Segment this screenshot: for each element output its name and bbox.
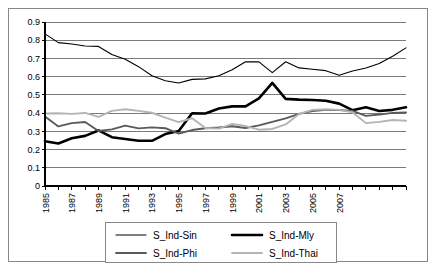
chart-legend: S_Ind-SinS_Ind-MlyS_Ind-PhiS_Ind-Thai — [105, 222, 336, 262]
x-axis-tick-label: 2007 — [335, 193, 345, 213]
y-axis-tick-label: 0.5 — [27, 90, 40, 100]
y-axis-tick-label: 0.3 — [27, 127, 40, 137]
y-axis-tick-label: 0.9 — [27, 17, 40, 27]
x-axis-tick-label: 2001 — [254, 193, 264, 213]
y-axis-tick-label: 0.8 — [27, 35, 40, 45]
x-axis-tick-label: 2003 — [281, 193, 291, 213]
x-axis-tick-label: 1993 — [147, 193, 157, 213]
y-axis-tick-label: 0.6 — [27, 72, 40, 82]
y-axis-tick-label: 0.4 — [27, 108, 40, 118]
x-axis-tick-label: 1997 — [201, 193, 211, 213]
x-axis-tick-label: 1995 — [174, 193, 184, 213]
chart-plot-area: 0.90.80.70.60.50.40.30.20.10 19851987198… — [0, 0, 438, 274]
legend-label-s-ind-thai: S_Ind-Thai — [269, 248, 318, 259]
x-axis-tick-label: 1989 — [94, 193, 104, 213]
x-axis-tick-label: 1987 — [67, 193, 77, 213]
y-axis-tick-label: 0 — [35, 181, 40, 191]
x-axis-tick-labels: 1985198719891991199319951997199920012003… — [41, 193, 345, 213]
chart-container: 0.90.80.70.60.50.40.30.20.10 19851987198… — [0, 0, 438, 274]
x-axis-tick-label: 1999 — [228, 193, 238, 213]
x-axis-ticks — [45, 186, 406, 190]
x-axis-tick-label: 1991 — [121, 193, 131, 213]
y-axis-tick-label: 0.2 — [27, 145, 40, 155]
series-line-s-ind-thai — [45, 109, 406, 129]
legend-label-s-ind-mly: S_Ind-Mly — [269, 230, 314, 241]
legend-label-s-ind-phi: S_Ind-Phi — [153, 248, 197, 259]
x-axis-tick-label: 2005 — [308, 193, 318, 213]
y-axis-tick-label: 0.7 — [27, 54, 40, 64]
legend-label-s-ind-sin: S_Ind-Sin — [153, 230, 197, 241]
data-series — [45, 34, 406, 144]
x-axis-tick-label: 1985 — [41, 193, 51, 213]
y-axis-tick-label: 0.1 — [27, 163, 40, 173]
y-axis-tick-labels: 0.90.80.70.60.50.40.30.20.10 — [27, 17, 45, 191]
